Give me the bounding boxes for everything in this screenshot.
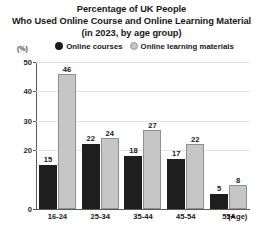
legend-swatch-icon-online-learning-materials <box>130 42 138 50</box>
bar-16-24-courses[interactable]: 15 <box>39 165 57 209</box>
y-axis-tick-40: 40 <box>24 87 32 96</box>
bars-layer: 154622241827172258 <box>36 62 250 209</box>
y-axis-tick-30: 30 <box>24 116 32 125</box>
bar-16-24-materials[interactable]: 46 <box>58 74 76 209</box>
bar-45-54-courses[interactable]: 17 <box>167 159 185 209</box>
bar-value-label: 24 <box>105 129 113 138</box>
x-axis-labels: 16-2425-3435-4445-5455+ <box>36 212 250 221</box>
bar-group-35-44: 1827 <box>124 62 161 209</box>
x-axis-label-25-34: 25-34 <box>82 212 119 221</box>
bar-value-label: 18 <box>129 146 137 155</box>
legend-swatch-icon-online-courses <box>55 42 63 50</box>
y-axis-tick-mark-0 <box>33 209 36 210</box>
y-axis-tick-50: 50 <box>24 58 32 67</box>
chart-legend: Online courses Online learning materials <box>0 42 263 51</box>
bar-value-label: 46 <box>63 65 71 74</box>
bar-55+-materials[interactable]: 8 <box>229 185 247 209</box>
bar-35-44-materials[interactable]: 27 <box>143 130 161 209</box>
x-axis-label-35-44: 35-44 <box>124 212 161 221</box>
bar-value-label: 15 <box>44 155 52 164</box>
plot-wrapper: 504030200 154622241827172258 16-2425-343… <box>0 62 263 235</box>
bar-25-34-courses[interactable]: 22 <box>82 144 100 209</box>
bar-group-55+: 58 <box>210 62 247 209</box>
legend-item-online-learning-materials: Online learning materials <box>130 42 234 51</box>
x-axis-name-label: (Age) <box>228 212 247 221</box>
bar-value-label: 22 <box>191 135 199 144</box>
bar-25-34-materials[interactable]: 24 <box>101 138 119 209</box>
legend-label-online-learning-materials: Online learning materials <box>141 42 234 51</box>
bar-value-label: 17 <box>172 149 180 158</box>
bar-value-label: 5 <box>217 184 221 193</box>
bar-value-label: 8 <box>236 176 240 185</box>
bar-group-16-24: 1546 <box>39 62 76 209</box>
bar-group-25-34: 2224 <box>82 62 119 209</box>
y-axis-tick-20: 20 <box>24 146 32 155</box>
bar-35-44-courses[interactable]: 18 <box>124 156 142 209</box>
chart-title-line-1: Percentage of UK People <box>0 3 263 15</box>
bar-value-label: 27 <box>148 121 156 130</box>
x-axis-label-16-24: 16-24 <box>39 212 76 221</box>
y-axis-unit-label: (%) <box>17 45 28 52</box>
gridline-0: 0 <box>36 209 250 210</box>
chart-container: Percentage of UK People Who Used Online … <box>0 0 263 235</box>
chart-title-line-2: Who Used Online Course and Online Learni… <box>0 15 263 27</box>
bar-45-54-materials[interactable]: 22 <box>186 144 204 209</box>
legend-label-online-courses: Online courses <box>66 42 122 51</box>
chart-title-line-3: (in 2023, by age group) <box>0 27 263 39</box>
legend-item-online-courses: Online courses <box>55 42 122 51</box>
bar-value-label: 22 <box>86 134 94 143</box>
chart-title: Percentage of UK People Who Used Online … <box>0 0 263 40</box>
y-axis-tick-0: 0 <box>28 205 32 214</box>
bar-55+-courses[interactable]: 5 <box>210 194 228 209</box>
x-axis-label-45-54: 45-54 <box>167 212 204 221</box>
bar-group-45-54: 1722 <box>167 62 204 209</box>
